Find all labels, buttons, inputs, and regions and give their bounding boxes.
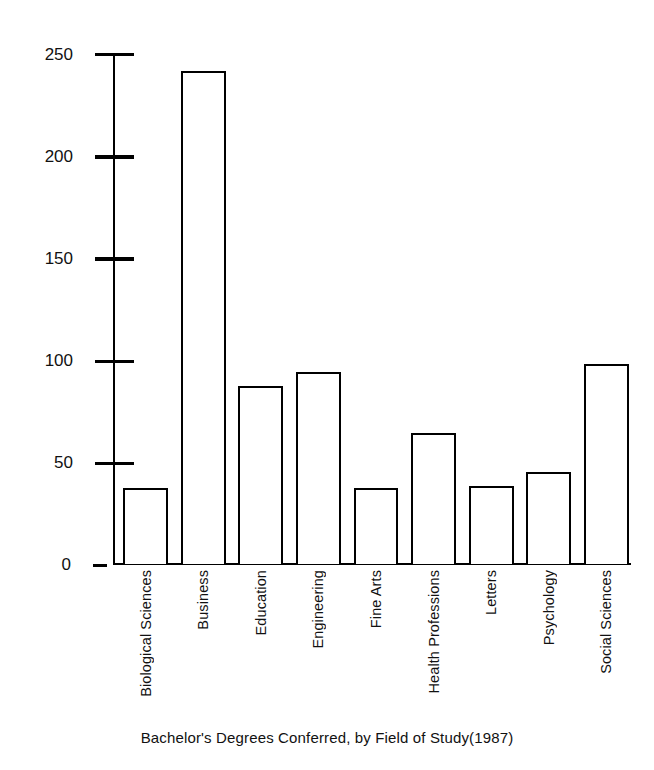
x-tick-label-letters: Letters — [483, 570, 499, 615]
x-tick-label-psychology: Psychology — [541, 570, 557, 645]
y-tick-label-0: 0 — [62, 555, 71, 575]
x-tick-label-fine-arts: Fine Arts — [368, 570, 384, 628]
bar-psychology — [526, 472, 571, 564]
x-tick-label-engineering: Engineering — [310, 570, 326, 649]
bar-social-sciences — [584, 364, 629, 564]
y-tick-0: 0 — [93, 564, 107, 567]
bar-engineering — [296, 372, 341, 564]
y-tick-label-50: 50 — [54, 453, 73, 473]
x-tick-label-health-professions: Health Professions — [426, 570, 442, 694]
y-tick-label-250: 250 — [45, 45, 73, 65]
figure-caption: Bachelor's Degrees Conferred, by Field o… — [0, 729, 654, 746]
x-tick-label-social-sciences: Social Sciences — [598, 570, 614, 674]
bar-fine-arts — [354, 488, 399, 564]
y-tick-label-150: 150 — [45, 249, 73, 269]
bar-letters — [469, 486, 514, 564]
x-tick-label-education: Education — [253, 570, 269, 635]
bar-health-professions — [411, 433, 456, 564]
plot-area: 050100150200250 — [113, 53, 631, 565]
bar-series — [113, 53, 631, 564]
bar-education — [238, 386, 283, 564]
x-tick-label-business: Business — [195, 570, 211, 630]
x-axis-tick-labels: Biological SciencesBusinessEducationEngi… — [113, 570, 631, 720]
y-tick-label-100: 100 — [45, 351, 73, 371]
y-tick-label-200: 200 — [45, 147, 73, 167]
bar-business — [181, 71, 226, 564]
bar-chart-figure: Frequency (thousands) 050100150200250 Bi… — [0, 0, 654, 770]
bar-biological-sciences — [123, 488, 168, 564]
x-tick-label-biological-sciences: Biological Sciences — [138, 570, 154, 697]
